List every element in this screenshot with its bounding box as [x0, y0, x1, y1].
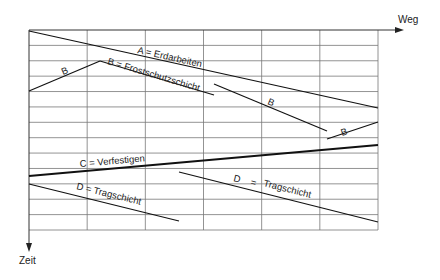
x-axis-arrow-icon [395, 27, 404, 33]
y-axis-label: Zeit [19, 255, 36, 266]
y-axis-arrow-icon [26, 243, 32, 252]
x-axis: Weg [29, 14, 418, 33]
label-d-right-eq: = [250, 176, 258, 188]
label-b-right: B [339, 125, 348, 137]
x-axis-label: Weg [398, 14, 418, 25]
label-d-left: D = Tragschicht [76, 180, 143, 207]
label-d-right-letter: D [233, 172, 242, 184]
y-axis: Zeit [19, 30, 36, 266]
label-b-left: B [59, 64, 69, 77]
time-distance-diagram: Weg Zeit A = Erdarbeiten B B = Frostschu… [0, 0, 440, 280]
label-b-mid: B [266, 96, 276, 109]
label-d-right-word: Tragschicht [263, 177, 313, 200]
activity-b-line [327, 122, 378, 139]
